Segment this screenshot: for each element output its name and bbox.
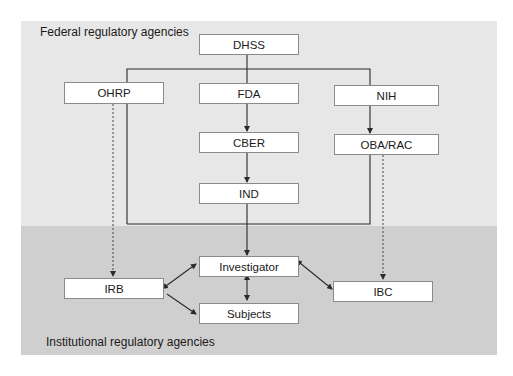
node-dhss: DHSS <box>199 34 299 55</box>
node-fda: FDA <box>199 83 299 104</box>
node-subjects: Subjects <box>199 303 299 324</box>
node-oba-rac: OBA/RAC <box>334 134 439 155</box>
node-investigator: Investigator <box>199 256 299 277</box>
node-irb: IRB <box>64 278 164 299</box>
node-cber: CBER <box>199 132 299 153</box>
institutional-region-label: Institutional regulatory agencies <box>46 335 215 349</box>
federal-region-label: Federal regulatory agencies <box>40 25 189 39</box>
node-nih: NIH <box>334 85 439 106</box>
node-ind: IND <box>199 183 299 204</box>
node-ohrp: OHRP <box>64 82 164 104</box>
node-ibc: IBC <box>333 281 433 302</box>
